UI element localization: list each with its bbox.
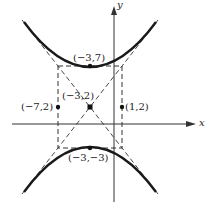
center-square bbox=[88, 105, 93, 110]
vertex-top-dot bbox=[88, 64, 92, 68]
y-axis-label: y bbox=[117, 0, 123, 10]
left-point-dot bbox=[56, 105, 60, 109]
left-point-label: (−7,2) bbox=[21, 102, 53, 112]
x-axis-label: x bbox=[199, 118, 205, 128]
vertex-bottom-dot bbox=[88, 146, 92, 150]
center-label: (−3,2) bbox=[62, 91, 94, 101]
hyperbola-diagram: x y (−3,7) (−3,2) (−7,2) (1,2) (−3,−3) bbox=[0, 0, 211, 208]
x-axis-arrow-icon bbox=[186, 121, 196, 127]
vertex-bottom-label: (−3,−3) bbox=[68, 153, 108, 163]
right-point-dot bbox=[120, 105, 124, 109]
vertex-top-label: (−3,7) bbox=[73, 53, 105, 63]
right-point-label: (1,2) bbox=[125, 102, 149, 112]
